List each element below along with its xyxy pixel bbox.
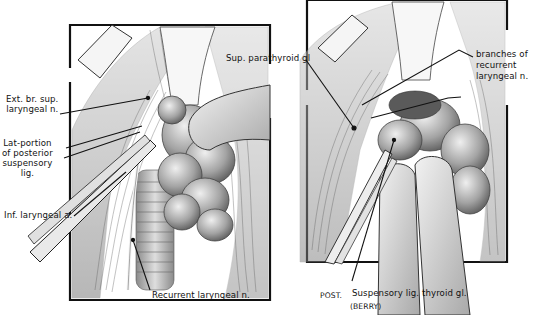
label-sup-parathyroid-gl: Sup. parathyroid gl (226, 53, 310, 63)
right-panel (300, 0, 507, 315)
illustration-canvas (0, 0, 537, 315)
label-post: POST. (320, 291, 342, 301)
label-berry: (BERRY) (350, 302, 381, 312)
label-branches-of-recurrent-laryngeal-n: branches of recurrent laryngeal n. (476, 49, 528, 82)
label-lat-portion-posterior-suspensory-lig: Lat-portion of posterior suspensory lig. (2, 138, 53, 178)
label-suspensory-lig-thyroid-gl: Suspensory lig. thyroid gl. (352, 288, 467, 298)
label-recurrent-laryngeal-n: Recurrent laryngeal n. (152, 290, 250, 300)
left-larynx (160, 27, 215, 105)
left-panel (28, 25, 270, 300)
label-inf-laryngeal-a: Inf. laryngeal a. (4, 210, 72, 220)
label-ext-br-sup-laryngeal-n: Ext. br. sup. laryngeal n. (6, 94, 58, 114)
right-larynx (392, 2, 444, 80)
figure: Ext. br. sup. laryngeal n. Lat-portion o… (0, 0, 537, 315)
right-dissection-recess (389, 91, 441, 119)
